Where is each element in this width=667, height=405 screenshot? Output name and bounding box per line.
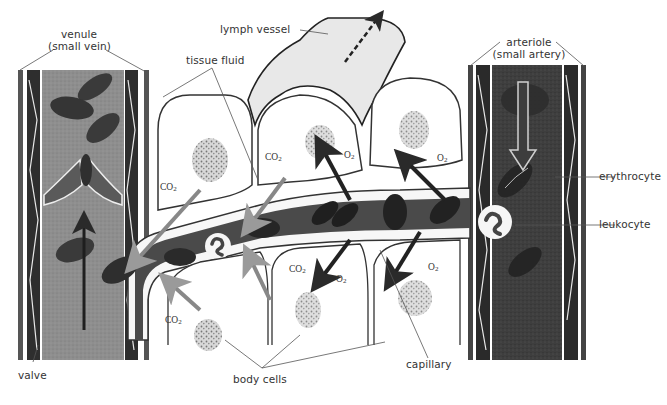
- capillary-label: capillary: [406, 358, 452, 370]
- o2-label: O2: [428, 262, 438, 273]
- co2-sub: 2: [302, 267, 306, 275]
- o2-label: O2: [437, 153, 447, 164]
- tissue-fluid-label: tissue fluid: [186, 54, 244, 66]
- erythrocyte-label: erythrocyte: [599, 170, 661, 182]
- co2-sub: 2: [278, 155, 282, 163]
- venule-label-sub: (small vein): [48, 40, 110, 52]
- o2-sub: 2: [435, 265, 439, 273]
- co2-label: CO2: [289, 264, 306, 275]
- co2-text: CO: [265, 152, 278, 162]
- leukocyte: [478, 205, 512, 239]
- o2-text: O: [344, 150, 351, 160]
- o2-sub: 2: [444, 156, 448, 164]
- body-cells-label: body cells: [233, 373, 287, 385]
- o2-label: O2: [344, 150, 354, 161]
- valve-label: valve: [18, 369, 47, 381]
- co2-label: CO2: [165, 315, 182, 326]
- o2-label: O2: [336, 274, 346, 285]
- o2-text: O: [437, 153, 444, 163]
- o2-sub: 2: [351, 153, 355, 161]
- co2-sub: 2: [178, 318, 182, 326]
- arteriole-label-sub: (small artery): [490, 48, 568, 60]
- arteriole: [468, 65, 586, 360]
- co2-text: CO: [160, 182, 173, 192]
- o2-text: O: [336, 274, 343, 284]
- leukocyte-label: leukocyte: [599, 218, 651, 230]
- co2-text: CO: [165, 315, 178, 325]
- lymph-vessel-label: lymph vessel: [220, 23, 290, 35]
- arteriole-label-main: arteriole: [490, 36, 568, 48]
- co2-sub: 2: [173, 185, 177, 193]
- arteriole-label: arteriole (small artery): [490, 36, 568, 60]
- o2-sub: 2: [343, 277, 347, 285]
- co2-label: CO2: [265, 152, 282, 163]
- co2-label: CO2: [160, 182, 177, 193]
- co2-text: CO: [289, 264, 302, 274]
- venule-label-main: venule: [48, 28, 110, 40]
- o2-text: O: [428, 262, 435, 272]
- capillary-exchange-diagram: [0, 0, 667, 405]
- venule-label: venule (small vein): [48, 28, 110, 52]
